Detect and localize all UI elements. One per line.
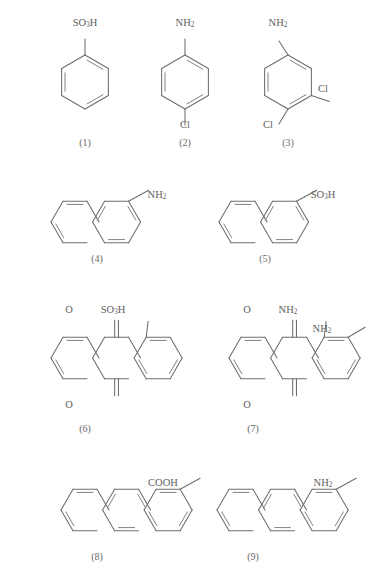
naphthalene-2-sulfonic-acid-bond: [297, 222, 309, 243]
naphthalene-2-sulfonic-acid-double-bond: [265, 206, 273, 220]
2-aminoanthracene-double-bond: [222, 512, 230, 526]
compound-number-label: (5): [259, 253, 271, 265]
3,4-dichloroaniline-double-bond: [290, 95, 306, 104]
compound-number-label: (1): [79, 137, 91, 149]
2-aminoanthracene-bond: [336, 489, 348, 510]
1,2-diaminoanthraquinone-double-bond: [317, 360, 325, 374]
compound-anthracene-2-carboxylic-acid: COOH(8): [61, 477, 200, 563]
compound-naphthalene-2-sulfonic-acid: SO3H(5): [219, 189, 336, 265]
3,4-dichloroaniline-bond: [288, 55, 311, 69]
anthracene-2-carboxylic-acid-double-bond: [66, 512, 74, 526]
2-aminoanthracene-bond: [259, 510, 271, 531]
atom-label-nh2-2: NH2: [279, 304, 298, 316]
atom-label-cl-2: Cl: [263, 119, 273, 130]
atom-label-nh2-0: NH2: [314, 477, 333, 489]
2-naphthylamine-bond: [129, 222, 141, 243]
benzenesulfonic-acid-bond: [85, 96, 108, 110]
anthraquinone-1-sulfonic-acid-bond: [93, 337, 105, 358]
1,2-diaminoanthraquinone-bond: [307, 337, 319, 358]
anthraquinone-1-sulfonic-acid-bond: [170, 337, 182, 358]
1,2-diaminoanthraquinone-bond: [271, 358, 283, 379]
substituent-bond: [336, 478, 356, 489]
naphthalene-2-sulfonic-acid-double-bond: [224, 224, 232, 238]
compound-4-chloroaniline: NH2Cl(2): [162, 17, 209, 149]
atom-label-nh2-0: NH2: [148, 189, 167, 201]
compound-number-label: (3): [282, 137, 294, 149]
substituent-bond: [311, 96, 329, 102]
2-naphthylamine-double-bond: [56, 224, 64, 238]
anthracene-2-carboxylic-acid-double-bond: [149, 512, 157, 526]
anthraquinone-1-sulfonic-acid-bond: [87, 337, 99, 358]
substituent-bond: [146, 321, 148, 337]
1,2-diaminoanthraquinone-double-bond: [347, 360, 355, 374]
atom-label-so3h-0: SO3H: [73, 17, 98, 29]
compound-benzenesulfonic-acid: SO3H(1): [62, 17, 109, 149]
compound-2-aminoanthracene: NH2(9): [217, 477, 356, 563]
anthracene-2-carboxylic-acid-bond: [144, 489, 156, 510]
2-naphthylamine-bond: [51, 201, 63, 222]
1,2-diaminoanthraquinone-bond: [271, 337, 283, 358]
benzenesulfonic-acid-double-bond: [87, 60, 103, 69]
compound-number-label: (4): [91, 253, 103, 265]
compound-2-naphthylamine: NH2(4): [51, 189, 167, 265]
anthracene-2-carboxylic-acid-bond: [97, 489, 109, 510]
chemical-structures-canvas: SO3H(1)NH2Cl(2)NH2ClCl(3)NH2(4)SO3H(5)OO…: [0, 0, 367, 585]
atom-label-o-0: O: [65, 304, 73, 315]
naphthalene-2-sulfonic-acid-bond: [219, 201, 231, 222]
atom-label-cooh-0: COOH: [148, 477, 178, 488]
benzenesulfonic-acid-bond: [62, 96, 85, 110]
2-aminoanthracene-bond: [300, 489, 312, 510]
substituent-bond: [279, 109, 288, 124]
atom-label-so3h-2: SO3H: [101, 304, 126, 316]
2-aminoanthracene-bond: [217, 489, 229, 510]
benzenesulfonic-acid-bond: [62, 55, 85, 69]
compound-number-label: (2): [179, 137, 191, 149]
compound-1,2-diaminoanthraquinone: OONH2NH2(7): [229, 304, 365, 435]
atom-label-o-1: O: [65, 399, 73, 410]
2-naphthylamine-bond: [93, 222, 105, 243]
substituent-bond: [180, 478, 200, 489]
4-chloroaniline-bond: [162, 96, 185, 110]
1,2-diaminoanthraquinone-bond: [348, 337, 360, 358]
1,2-diaminoanthraquinone-bond: [229, 337, 241, 358]
2-aminoanthracene-double-bond: [294, 494, 302, 508]
2-naphthylamine-double-bond: [128, 206, 136, 220]
atom-label-o-1: O: [243, 399, 251, 410]
anthracene-2-carboxylic-acid-double-bond: [179, 512, 187, 526]
2-naphthylamine-bond: [87, 201, 99, 222]
atom-label-o-0: O: [243, 304, 251, 315]
anthracene-2-carboxylic-acid-double-bond: [107, 494, 115, 508]
1,2-diaminoanthraquinone-bond: [265, 337, 277, 358]
3,4-dichloroaniline-bond: [265, 96, 288, 110]
benzenesulfonic-acid-bond: [85, 55, 108, 69]
anthraquinone-1-sulfonic-acid-bond: [51, 337, 63, 358]
1,2-diaminoanthraquinone-bond: [312, 337, 324, 358]
4-chloroaniline-bond: [185, 55, 208, 69]
substituent-bond: [279, 41, 288, 55]
3,4-dichloroaniline-bond: [288, 96, 311, 110]
anthracene-2-carboxylic-acid-bond: [180, 489, 192, 510]
2-naphthylamine-double-bond: [97, 206, 105, 220]
naphthalene-2-sulfonic-acid-bond: [261, 222, 273, 243]
4-chloroaniline-bond: [185, 96, 208, 110]
compound-number-label: (6): [79, 423, 91, 435]
naphthalene-2-sulfonic-acid-bond: [255, 201, 267, 222]
anthracene-2-carboxylic-acid-bond: [103, 510, 115, 531]
3,4-dichloroaniline-double-bond: [290, 60, 306, 69]
compound-anthraquinone-1-sulfonic-acid: OOSO3H(6): [51, 304, 182, 435]
atom-label-cl-1: Cl: [318, 83, 328, 94]
benzenesulfonic-acid-double-bond: [87, 95, 103, 104]
anthraquinone-1-sulfonic-acid-bond: [134, 337, 146, 358]
3,4-dichloroaniline-bond: [265, 55, 288, 69]
naphthalene-2-sulfonic-acid-double-bond: [296, 206, 304, 220]
anthraquinone-1-sulfonic-acid-bond: [93, 358, 105, 379]
2-aminoanthracene-double-bond: [335, 512, 343, 526]
1,2-diaminoanthraquinone-double-bond: [234, 360, 242, 374]
anthraquinone-1-sulfonic-acid-double-bond: [169, 360, 177, 374]
structure-figure-page: SO3H(1)NH2Cl(2)NH2ClCl(3)NH2(4)SO3H(5)OO…: [0, 0, 367, 585]
anthracene-2-carboxylic-acid-bond: [61, 489, 73, 510]
anthraquinone-1-sulfonic-acid-double-bond: [56, 360, 64, 374]
atom-label-cl-1: Cl: [180, 119, 190, 130]
anthraquinone-1-sulfonic-acid-bond: [129, 337, 141, 358]
2-aminoanthracene-double-bond: [305, 512, 313, 526]
